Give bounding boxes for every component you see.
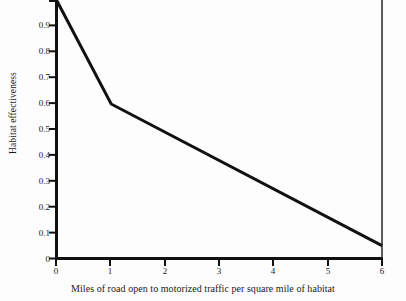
- y-tick-label: 0.2: [24, 202, 50, 212]
- y-tick-label: 0.4: [24, 150, 50, 160]
- chart-container: 0 0.1 0.2 0.3 0.4 0.5 0.6 0.7 0.8 0.9 1 …: [0, 0, 406, 301]
- y-tick-label: 0.1: [24, 228, 50, 238]
- x-tick-label: 1: [100, 266, 120, 276]
- x-axis-label: Miles of road open to motorized traffic …: [0, 283, 406, 294]
- y-tick-label: 0.7: [24, 72, 50, 82]
- x-tick-label: 2: [155, 266, 175, 276]
- y-tick-label: 0.6: [24, 98, 50, 108]
- x-axis-tick-labels: 0 1 2 3 4 5 6: [0, 266, 406, 282]
- y-axis-label: Habitat effectiveness: [8, 53, 18, 173]
- data-series-line: [57, 1, 382, 246]
- line-chart-plot: [0, 0, 406, 301]
- y-tick-label: 0.3: [24, 176, 50, 186]
- x-tick-label: 5: [318, 266, 338, 276]
- x-tick-label: 0: [46, 266, 66, 276]
- y-axis-tick-labels: 0 0.1 0.2 0.3 0.4 0.5 0.6 0.7 0.8 0.9 1: [24, 0, 50, 301]
- x-tick-label: 6: [372, 266, 392, 276]
- x-tick-label: 3: [209, 266, 229, 276]
- y-tick-label: 0.9: [24, 20, 50, 30]
- y-tick-label: 0.8: [24, 46, 50, 56]
- x-tick-label: 4: [263, 266, 283, 276]
- y-tick-label: 0: [24, 254, 50, 264]
- y-tick-label: 0.5: [24, 124, 50, 134]
